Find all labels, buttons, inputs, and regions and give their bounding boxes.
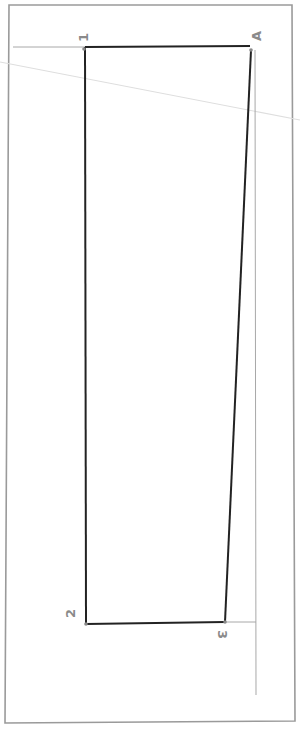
point-3-label: 3 bbox=[215, 630, 230, 639]
pattern-diagram: 1 A 2 3 bbox=[0, 0, 300, 730]
right-guide-line bbox=[255, 50, 256, 695]
shape-outline bbox=[85, 46, 250, 47]
point-2-label: 2 bbox=[63, 609, 78, 618]
point-A-marker bbox=[249, 48, 253, 52]
point-1-marker bbox=[82, 47, 86, 51]
shape-right-edge bbox=[225, 50, 251, 622]
shape-bottom-edge bbox=[86, 622, 225, 624]
point-1-label: 1 bbox=[76, 33, 91, 42]
point-2-marker bbox=[84, 622, 88, 626]
point-A-label: A bbox=[249, 31, 264, 41]
shape-left-edge bbox=[85, 47, 86, 624]
frame-border bbox=[5, 5, 295, 723]
point-3-marker bbox=[223, 620, 227, 624]
